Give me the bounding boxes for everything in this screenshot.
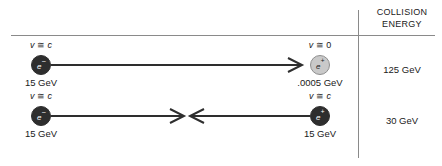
column-divider-line bbox=[358, 10, 359, 158]
velocity-rel-row1-left: ≅ bbox=[37, 40, 45, 50]
velocity-value-row2-left: c bbox=[48, 91, 53, 101]
collision-energy-value-row-2: 30 GeV bbox=[363, 115, 441, 126]
velocity-var-row1-right: v bbox=[309, 40, 314, 50]
particle-symbol-row2-right: e bbox=[316, 112, 320, 121]
velocity-label-row2-right: v ≅ c bbox=[290, 91, 350, 101]
velocity-label-row2-left: v ≅ c bbox=[11, 91, 71, 101]
header-divider-line bbox=[11, 35, 435, 36]
particle-electron-row1-left: e– bbox=[31, 55, 51, 75]
particle-charge-row2-right: + bbox=[321, 108, 325, 115]
particle-charge-row1-left: – bbox=[42, 57, 46, 64]
particle-charge-row2-left: – bbox=[42, 108, 46, 115]
diagram-row-collider: v ≅ c e– 15 GeV v ≅ c e+ 15 GeV bbox=[0, 92, 358, 140]
particle-symbol-row2-left: e bbox=[37, 112, 41, 121]
velocity-var-row2-right: v bbox=[309, 91, 314, 101]
velocity-var-row2-left: v bbox=[30, 91, 35, 101]
particle-charge-row1-right: + bbox=[321, 57, 325, 64]
particle-positron-row1-right: e+ bbox=[310, 55, 330, 75]
particle-positron-row2-right: e+ bbox=[310, 106, 330, 126]
energy-label-row2-left: 15 GeV bbox=[11, 128, 71, 139]
velocity-value-row2-right: c bbox=[327, 91, 332, 101]
energy-label-row1-left: 15 GeV bbox=[11, 77, 71, 88]
energy-label-row2-right: 15 GeV bbox=[290, 128, 350, 139]
velocity-value-row1-right: 0 bbox=[326, 40, 331, 50]
collision-energy-figure: COLLISION ENERGY v ≅ c e– 15 GeV v ≅ 0 bbox=[0, 0, 442, 166]
collision-energy-header: COLLISION ENERGY bbox=[363, 6, 441, 30]
collision-energy-header-line1: COLLISION bbox=[363, 6, 441, 18]
velocity-rel-row1-right: ≅ bbox=[316, 40, 324, 50]
particle-symbol-row1-right: e bbox=[316, 61, 320, 70]
collision-energy-header-line2: ENERGY bbox=[363, 18, 441, 30]
diagram-row-fixed-target: v ≅ c e– 15 GeV v ≅ 0 e+ .0005 GeV bbox=[0, 41, 358, 89]
collision-energy-value-row-1: 125 GeV bbox=[363, 64, 441, 75]
velocity-value-row1-left: c bbox=[48, 40, 53, 50]
particle-symbol-row1-left: e bbox=[37, 61, 41, 70]
velocity-var-row1-left: v bbox=[30, 40, 35, 50]
velocity-label-row1-right: v ≅ 0 bbox=[290, 40, 350, 50]
energy-label-row1-right: .0005 GeV bbox=[288, 77, 352, 88]
velocity-rel-row2-left: ≅ bbox=[37, 91, 45, 101]
particle-electron-row2-left: e– bbox=[31, 106, 51, 126]
velocity-label-row1-left: v ≅ c bbox=[11, 40, 71, 50]
velocity-rel-row2-right: ≅ bbox=[316, 91, 324, 101]
